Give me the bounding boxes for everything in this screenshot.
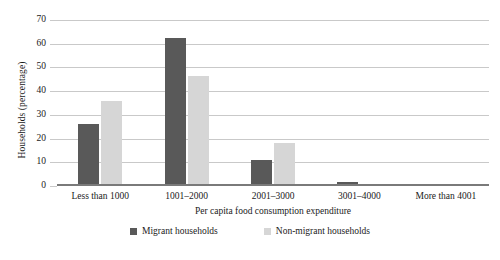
legend-swatch-icon	[264, 228, 271, 235]
y-axis-tick-label: 60	[14, 39, 46, 49]
y-axis-tick-label: 50	[14, 62, 46, 72]
x-axis-line	[57, 184, 489, 186]
x-axis-tick-label: 1001–2000	[165, 190, 208, 203]
y-axis-tick-label: 10	[14, 157, 46, 167]
bar-group	[143, 20, 229, 186]
bar	[188, 76, 209, 186]
bar	[78, 124, 99, 186]
y-axis-tick-mark	[50, 44, 57, 45]
y-axis-tick-mark	[50, 139, 57, 140]
plot-area: 010203040506070	[57, 20, 489, 186]
y-axis-tick-mark	[50, 115, 57, 116]
bar	[274, 143, 295, 186]
chart-legend: Migrant householdsNon-migrant households	[0, 226, 500, 236]
bar-group	[403, 20, 489, 186]
x-axis-tick-label: Less than 1000	[71, 190, 129, 203]
y-axis-tick-label: 40	[14, 86, 46, 96]
y-axis-tick-mark	[50, 20, 57, 21]
bar-group	[57, 20, 143, 186]
bar	[101, 101, 122, 186]
x-axis-tick-label: 2001–3000	[252, 190, 295, 203]
x-axis-tick-label: More than 4001	[415, 190, 476, 203]
legend-swatch-icon	[130, 228, 137, 235]
y-axis-tick-label: 70	[14, 15, 46, 25]
legend-label: Migrant households	[142, 226, 218, 236]
x-axis-tick-label: 3001–4000	[338, 190, 381, 203]
legend-item[interactable]: Migrant households	[130, 226, 218, 236]
bar-group	[230, 20, 316, 186]
bar-chart-figure: Households (percentage) 010203040506070 …	[0, 0, 500, 260]
y-axis-tick-mark	[50, 162, 57, 163]
y-axis-tick-mark	[50, 91, 57, 92]
y-axis-tick-mark	[50, 186, 57, 187]
bar	[251, 160, 272, 186]
y-axis-tick-label: 30	[14, 110, 46, 120]
legend-label: Non-migrant households	[276, 226, 370, 236]
y-axis-tick-label: 20	[14, 134, 46, 144]
y-axis-tick-label: 0	[14, 181, 46, 191]
legend-item[interactable]: Non-migrant households	[264, 226, 370, 236]
x-axis-title: Per capita food consumption expenditure	[57, 206, 489, 216]
x-axis-tick-labels: Less than 10001001–20002001–30003001–400…	[57, 190, 489, 204]
y-axis-tick-mark	[50, 67, 57, 68]
bar	[165, 38, 186, 186]
bar-group	[316, 20, 402, 186]
